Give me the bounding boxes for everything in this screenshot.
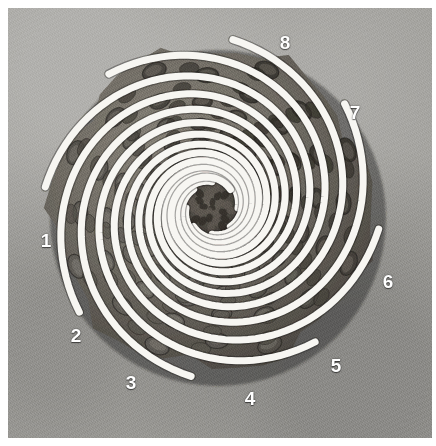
spiral-label-layer: 12345678 — [8, 8, 432, 438]
photograph-plate: 12345678 — [8, 8, 432, 438]
spiral-label-3: 3 — [126, 373, 137, 392]
spiral-label-1: 1 — [41, 231, 52, 250]
spiral-label-6: 6 — [383, 272, 394, 291]
spiral-label-5: 5 — [331, 356, 342, 375]
spiral-label-2: 2 — [71, 326, 82, 345]
spiral-label-8: 8 — [280, 33, 291, 52]
spiral-label-7: 7 — [350, 103, 361, 122]
spiral-label-4: 4 — [245, 389, 256, 408]
figure-container: 12345678 — [0, 0, 436, 446]
